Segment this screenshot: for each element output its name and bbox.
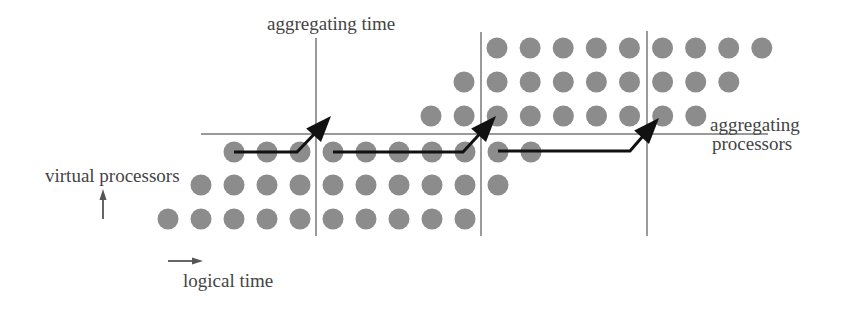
processor-dot [191, 209, 212, 230]
processor-dot [685, 38, 706, 59]
processor-dot [455, 175, 476, 196]
processor-dot [586, 72, 607, 93]
processor-dot [487, 72, 508, 93]
processor-dot [323, 209, 344, 230]
processor-dot [553, 106, 574, 127]
virtual-processors-axis-arrow-icon [100, 189, 107, 219]
processor-dot [224, 175, 245, 196]
processor-dot [422, 209, 443, 230]
processor-dot [718, 72, 739, 93]
processor-dot [389, 209, 410, 230]
processor-dot [191, 175, 212, 196]
processor-dot [158, 209, 179, 230]
processor-dot [652, 38, 673, 59]
processor-dot [553, 38, 574, 59]
processor-dot [454, 106, 475, 127]
aggregating-time-label: aggregating time [267, 13, 395, 34]
processor-dot [323, 175, 344, 196]
processor-dot [488, 175, 509, 196]
processor-dot [619, 72, 640, 93]
processor-dot [520, 38, 541, 59]
processor-dot [421, 106, 442, 127]
logical-time-label: logical time [183, 270, 273, 291]
virtual-processors-label: virtual processors [45, 165, 180, 186]
processor-dot [422, 175, 443, 196]
processor-dot [520, 106, 541, 127]
processor-dot [257, 209, 278, 230]
processor-dot [553, 72, 574, 93]
processor-dot [619, 38, 640, 59]
aggregating-processors-label-line2: processors [712, 133, 792, 154]
processor-dot [356, 175, 377, 196]
processor-dot [751, 38, 772, 59]
processor-dot [652, 72, 673, 93]
processor-dot [685, 106, 706, 127]
processor-dot [389, 175, 410, 196]
processor-dot [257, 175, 278, 196]
processor-dot [454, 72, 475, 93]
processor-dot [586, 38, 607, 59]
aggregation-diagram: aggregating time aggregating processors … [0, 0, 853, 310]
processor-dot [224, 209, 245, 230]
processor-dot [290, 209, 311, 230]
processor-dot [487, 38, 508, 59]
processor-dot [520, 72, 541, 93]
processor-dot [455, 209, 476, 230]
processor-dot [586, 106, 607, 127]
aggregating-processors-label-line1: aggregating [710, 114, 800, 135]
aggregation-arrow-path [498, 128, 650, 151]
processor-dot [718, 38, 739, 59]
processor-dot [290, 175, 311, 196]
processor-dot [685, 72, 706, 93]
logical-time-axis-arrow-icon [168, 258, 203, 265]
processor-dot [356, 209, 377, 230]
processor-dot [619, 106, 640, 127]
